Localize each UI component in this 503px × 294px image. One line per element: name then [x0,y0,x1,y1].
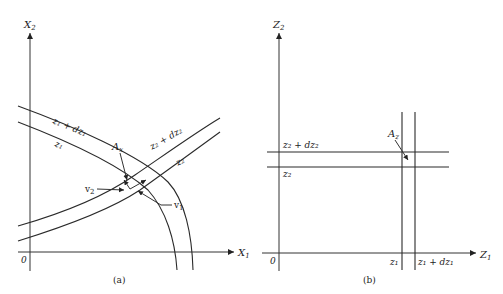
label-z2: z₂ [173,155,186,169]
curve-z1-plus-dz1 [18,106,193,270]
label-z1-b: z₁ [389,257,398,267]
ax-pointer [120,153,127,180]
vector-v2-label: v2 [84,184,95,196]
caption-a: (a) [113,275,125,285]
area-label-ax: Ax [111,141,123,154]
label-z1: z₁ [52,138,64,151]
panel-b: Z2 Z1 0 z₂ + dz₂ z₂ z₁ z₁ + dz₁ Az (b) [262,19,491,285]
label-z1-plus-dz1: z₁ + dz₁ [50,115,88,138]
origin-label-a: 0 [21,255,27,265]
area-label-az: Az [387,128,399,141]
x1-axis-label: X1 [237,247,250,260]
v2-leader [97,189,124,190]
z1-axis-label: Z1 [479,249,491,262]
vector-v1-label: v1 [173,200,184,212]
label-z1-plus-dz1-b: z₁ + dz₁ [417,257,454,267]
label-z2-plus-dz2: z₂ + dz₂ [147,125,184,152]
figure-canvas: X2 X1 0 z₁ + dz₁ z₁ z₂ + dz₂ z₂ Ax v2 v1… [0,0,503,294]
caption-b: (b) [363,275,376,285]
label-z2-b: z₂ [282,169,292,179]
label-z2-plus-dz2-b: z₂ + dz₂ [282,140,319,150]
panel-a: X2 X1 0 z₁ + dz₁ z₁ z₂ + dz₂ z₂ Ax v2 v1… [18,19,250,285]
x2-axis-label: X2 [23,19,36,32]
vector-v2-arrow [124,180,130,189]
origin-label-b: 0 [270,256,276,266]
z2-axis-label: Z2 [272,19,285,32]
